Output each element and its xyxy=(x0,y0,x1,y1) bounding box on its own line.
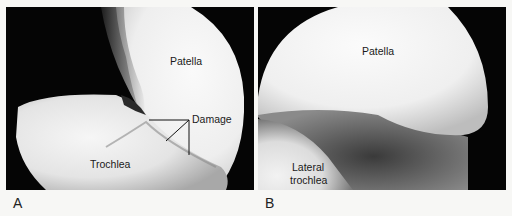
label-lateral-trochlea-line1: Lateral xyxy=(292,161,324,173)
arthroscopic-image-b: Patella Lateral trochlea xyxy=(258,7,506,190)
panel-letter-b: B xyxy=(265,195,274,211)
panel-letter-a: A xyxy=(13,195,22,211)
label-lateral-trochlea-line2: trochlea xyxy=(290,174,327,186)
arthroscopic-image-a: Patella Damage Trochlea xyxy=(6,7,254,190)
label-trochlea: Trochlea xyxy=(90,158,130,170)
label-patella-b: Patella xyxy=(362,45,394,57)
label-damage: Damage xyxy=(192,113,232,125)
label-patella-a: Patella xyxy=(170,55,202,67)
